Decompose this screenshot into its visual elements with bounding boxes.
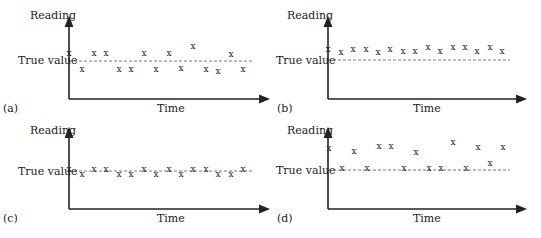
reading-marker: x	[437, 46, 442, 56]
reading-marker: x	[351, 146, 356, 156]
y-axis-label: Reading	[30, 9, 76, 22]
reading-marker: x	[487, 42, 492, 52]
reading-marker: x	[203, 64, 208, 74]
reading-marker: x	[116, 169, 121, 179]
reading-marker: x	[413, 147, 418, 157]
reading-marker: x	[426, 163, 431, 173]
reading-marker: x	[475, 142, 480, 152]
reading-marker: x	[376, 141, 381, 151]
reading-marker: x	[400, 46, 405, 56]
reading-marker: x	[79, 64, 84, 74]
panel-b: ReadingTimeTrue value(b)xxxxxxxxxxxxxxx	[276, 9, 525, 115]
reading-marker: x	[463, 163, 468, 173]
reading-marker: x	[215, 66, 220, 76]
panel-tag: (b)	[277, 102, 293, 115]
reading-marker: x	[462, 42, 467, 52]
reading-marker: x	[103, 48, 108, 58]
reading-marker: x	[240, 164, 245, 174]
reading-marker: x	[141, 48, 146, 58]
panel-a: ReadingTimeTrue value(a)xxxxxxxxxxxxxxx	[3, 9, 268, 115]
reading-marker: x	[128, 169, 133, 179]
reading-marker: x	[91, 164, 96, 174]
reading-marker: x	[325, 44, 330, 54]
reading-marker: x	[153, 64, 158, 74]
true-value-label: True value	[276, 54, 336, 67]
x-axis-label: Time	[413, 212, 441, 225]
reading-marker: x	[141, 164, 146, 174]
reading-marker: x	[240, 64, 245, 74]
reading-marker: x	[228, 169, 233, 179]
reading-marker: x	[350, 44, 355, 54]
reading-marker: x	[66, 164, 71, 174]
panel-tag: (c)	[3, 212, 18, 225]
reading-marker: x	[91, 48, 96, 58]
reading-marker: x	[178, 63, 183, 73]
reading-marker: x	[450, 42, 455, 52]
reading-marker: x	[166, 164, 171, 174]
reading-marker: x	[215, 169, 220, 179]
x-axis-label: Time	[157, 102, 185, 115]
x-axis-label: Time	[413, 102, 441, 115]
reading-marker: x	[128, 64, 133, 74]
y-axis-label: Reading	[287, 124, 333, 137]
reading-marker: x	[487, 158, 492, 168]
measurement-accuracy-figure: ReadingTimeTrue value(a)xxxxxxxxxxxxxxxR…	[0, 0, 541, 238]
reading-marker: x	[412, 46, 417, 56]
panel-tag: (d)	[277, 212, 293, 225]
reading-marker: x	[375, 47, 380, 57]
reading-marker: x	[103, 164, 108, 174]
reading-marker: x	[326, 143, 331, 153]
reading-marker: x	[166, 48, 171, 58]
reading-marker: x	[338, 47, 343, 57]
panel-c: ReadingTimeTrue value(c)xxxxxxxxxxxxxxx	[3, 124, 268, 225]
reading-marker: x	[203, 164, 208, 174]
reading-marker: x	[79, 169, 84, 179]
reading-marker: x	[499, 46, 504, 56]
reading-marker: x	[190, 164, 195, 174]
x-axis-label: Time	[157, 212, 185, 225]
reading-marker: x	[66, 48, 71, 58]
panel-tag: (a)	[3, 102, 18, 115]
reading-marker: x	[153, 169, 158, 179]
reading-marker: x	[425, 42, 430, 52]
reading-marker: x	[228, 49, 233, 59]
reading-marker: x	[388, 141, 393, 151]
reading-marker: x	[500, 142, 505, 152]
panel-d: ReadingTimeTrue value(d)xxxxxxxxxxxxxxx	[276, 124, 525, 225]
y-axis-label: Reading	[30, 124, 76, 137]
reading-marker: x	[364, 163, 369, 173]
reading-marker: x	[401, 163, 406, 173]
reading-marker: x	[116, 64, 121, 74]
reading-marker: x	[190, 41, 195, 51]
y-axis-label: Reading	[287, 9, 333, 22]
reading-marker: x	[438, 163, 443, 173]
true-value-label: True value	[276, 164, 336, 177]
reading-marker: x	[339, 163, 344, 173]
reading-marker: x	[450, 137, 455, 147]
reading-marker: x	[387, 44, 392, 54]
reading-marker: x	[178, 169, 183, 179]
reading-marker: x	[363, 44, 368, 54]
reading-marker: x	[474, 46, 479, 56]
